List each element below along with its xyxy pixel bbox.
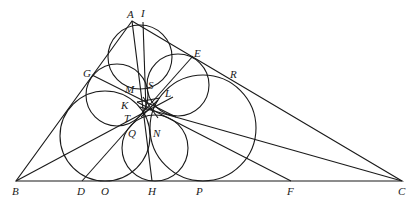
point-label-t: T <box>124 112 131 124</box>
diagram-canvas: AIERGMSLKTQNBDOHPFC <box>0 0 416 210</box>
circle-lower-left-large <box>60 91 150 181</box>
point-label-k: K <box>120 99 129 111</box>
point-label-e: E <box>193 47 201 59</box>
point-label-l: L <box>164 87 171 99</box>
point-label-g: G <box>83 67 91 79</box>
point-label-a: A <box>126 8 134 20</box>
geometry-diagram: AIERGMSLKTQNBDOHPFC <box>0 0 416 210</box>
point-label-h: H <box>147 185 157 197</box>
point-label-d: D <box>76 185 85 197</box>
segment-f-to-center <box>137 102 291 181</box>
point-label-s: S <box>148 79 154 91</box>
point-label-m: M <box>124 83 135 95</box>
point-label-n: N <box>152 127 161 139</box>
triangle-abc <box>16 21 402 181</box>
circle-top <box>108 25 172 89</box>
point-label-f: F <box>286 185 294 197</box>
point-label-b: B <box>12 185 19 197</box>
point-label-q: Q <box>128 127 136 139</box>
segment-e-d <box>82 56 193 181</box>
segment-g-to-center <box>92 75 176 117</box>
point-label-p: P <box>195 185 203 197</box>
point-label-c: C <box>398 185 406 197</box>
point-label-i: I <box>140 7 146 19</box>
point-label-r: R <box>229 68 237 80</box>
point-label-o: O <box>101 185 109 197</box>
